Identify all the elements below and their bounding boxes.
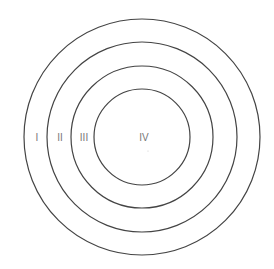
- label-III: III: [80, 132, 88, 143]
- label-I: I: [36, 132, 39, 143]
- concentric-circles-diagram: I II III IV: [0, 0, 274, 269]
- center-dot: [147, 150, 148, 151]
- label-II: II: [57, 132, 63, 143]
- label-IV: IV: [139, 132, 149, 143]
